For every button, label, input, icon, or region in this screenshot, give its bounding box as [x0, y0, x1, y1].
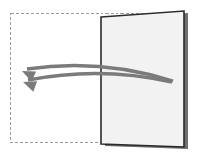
illustration-svg	[0, 0, 200, 155]
illustration-canvas	[0, 0, 200, 155]
swipe-arrow-lower-head	[23, 81, 37, 92]
